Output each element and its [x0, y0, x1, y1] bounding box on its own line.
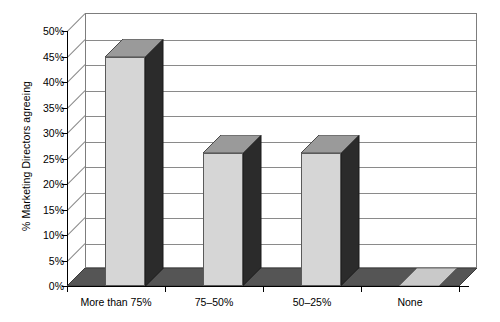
- bar-top-face: [301, 135, 361, 155]
- y-axis-tick-labels: 0%5%10%15%20%25%30%35%40%45%50%: [30, 0, 64, 322]
- y-axis-tick-label: 35%: [30, 103, 64, 113]
- y-axis-tick-label: 40%: [30, 77, 64, 87]
- x-axis-line: [67, 286, 469, 287]
- depth-connector: [67, 64, 86, 83]
- depth-connector: [67, 115, 86, 134]
- bar-top-face: [105, 39, 165, 59]
- y-axis-tick-label: 50%: [30, 26, 64, 36]
- y-axis-tick-label: 20%: [30, 179, 64, 189]
- bar-side-face: [243, 135, 263, 288]
- bar-zero-top: [399, 268, 459, 288]
- y-axis-tick-label: 0%: [30, 281, 64, 291]
- depth-connector: [67, 243, 86, 262]
- bar-side-face: [341, 135, 361, 288]
- x-axis-tick-mark: [165, 287, 166, 292]
- bar-front-face: [203, 153, 243, 286]
- depth-connector: [67, 141, 86, 160]
- y-axis-tick-label: 30%: [30, 128, 64, 138]
- y-axis-tick-label: 10%: [30, 230, 64, 240]
- x-axis-tick-label: None: [361, 296, 459, 308]
- bar-chart: % Marketing Directors agreeing 0%5%10%15…: [0, 0, 500, 322]
- x-axis-tick-label: 75–50%: [165, 296, 263, 308]
- y-axis-line: [67, 31, 68, 287]
- x-axis-tick-mark: [361, 287, 362, 292]
- y-axis-tick-label: 25%: [30, 154, 64, 164]
- bar-top-face: [203, 135, 263, 155]
- bar-side-face: [145, 39, 165, 289]
- x-axis-tick-mark: [263, 287, 264, 292]
- depth-connector: [67, 192, 86, 211]
- x-axis-tick-label: More than 75%: [67, 296, 165, 308]
- depth-connector: [67, 217, 86, 236]
- bar-front-face: [301, 153, 341, 286]
- depth-connector: [67, 166, 86, 185]
- x-axis-tick-mark: [67, 287, 68, 292]
- depth-connector: [67, 13, 86, 32]
- y-axis-tick-label: 5%: [30, 256, 64, 266]
- depth-connector: [67, 90, 86, 109]
- bar-front-face: [105, 57, 145, 287]
- x-axis-tick-mark: [459, 287, 460, 292]
- y-axis-tick-label: 45%: [30, 52, 64, 62]
- depth-connector: [67, 39, 86, 58]
- y-axis-tick-label: 15%: [30, 205, 64, 215]
- x-axis-tick-label: 50–25%: [263, 296, 361, 308]
